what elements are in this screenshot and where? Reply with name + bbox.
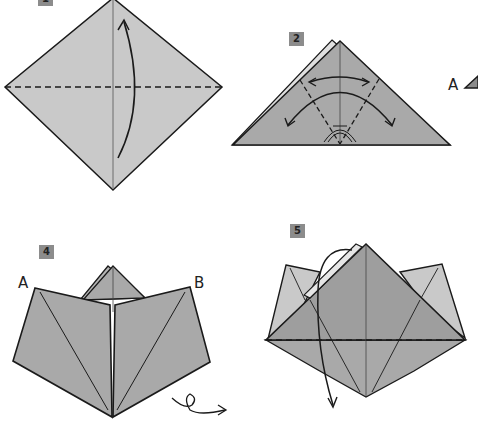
step-5-badge: 5	[290, 224, 305, 238]
step-2-side-label: A	[448, 76, 458, 94]
step-1-badge: 1	[38, 0, 53, 6]
turn-over-icon	[172, 394, 225, 413]
step-5-diagram	[266, 244, 465, 407]
step-4-label-b: B	[194, 274, 204, 292]
step-2-side-view	[465, 76, 478, 88]
step-4-badge: 4	[39, 245, 54, 259]
step-2-diagram	[232, 40, 450, 145]
step-1-diagram	[5, 0, 222, 190]
step-4-label-a: A	[18, 274, 28, 292]
origami-diagram	[0, 0, 478, 430]
step-2-badge: 2	[289, 32, 304, 46]
